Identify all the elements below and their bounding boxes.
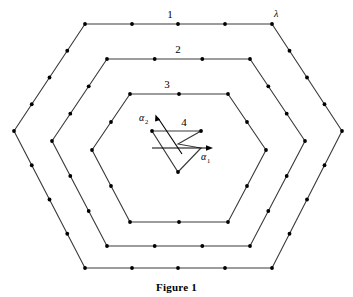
shell-1-label: 1	[167, 8, 173, 20]
alpha-2-subscript: 2	[145, 118, 148, 125]
shell-1-hexagon	[14, 24, 342, 268]
hexagon-weight-diagram: 1	[0, 0, 353, 297]
alpha-1-subscript: 1	[207, 157, 210, 164]
shell-3-lattice-points	[90, 92, 268, 224]
alpha-1-arrow-head	[206, 145, 213, 151]
figure-container: 1	[0, 0, 353, 297]
shell-4-lattice-points	[150, 129, 203, 174]
shell-2-lattice-points	[50, 57, 307, 248]
lambda-label: λ	[273, 8, 279, 19]
shell-2-label: 2	[175, 43, 181, 55]
shell-4-inner-polygon	[152, 131, 201, 172]
shell-3-group: 3	[90, 78, 268, 224]
lambda-marker-group: λ	[273, 8, 279, 19]
shell-2-group: 2	[50, 43, 307, 248]
alpha-1-vector-group: α 1	[152, 145, 213, 163]
shell-4-label: 4	[181, 116, 187, 128]
shell-3-label: 3	[164, 78, 170, 90]
figure-caption: Figure 1	[0, 281, 353, 293]
shell-3-hexagon	[92, 94, 266, 222]
alpha-2-arrow-shaft	[158, 118, 182, 154]
